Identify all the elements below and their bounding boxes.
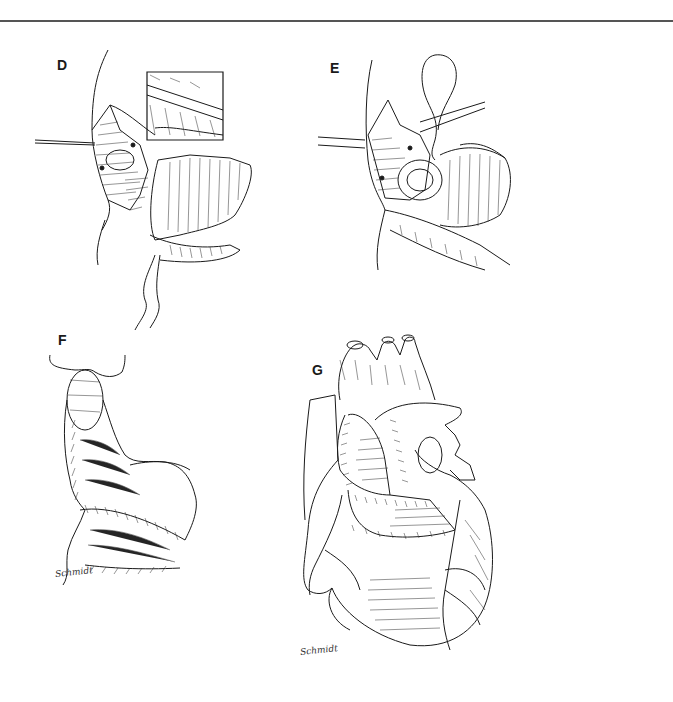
figure-panel-f: F Schmidt — [30, 320, 250, 600]
panel-f-illustration — [30, 320, 250, 600]
panel-d-illustration — [30, 50, 270, 330]
figure-panel-e: E — [310, 50, 550, 290]
figure-panel-g: G — [280, 320, 520, 700]
panel-e-illustration — [310, 50, 550, 290]
figure-panel-d: D — [30, 50, 270, 330]
panel-g-illustration — [280, 320, 520, 700]
header-rule — [0, 20, 673, 22]
